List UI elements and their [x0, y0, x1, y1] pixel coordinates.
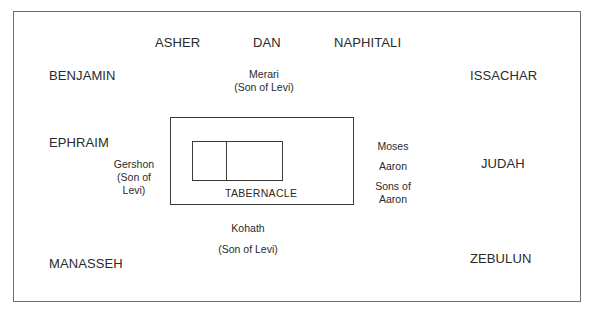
priest-moses: Moses — [363, 140, 423, 153]
tribe-zebulun: ZEBULUN — [470, 252, 531, 265]
holy-of-holies-divider — [226, 142, 227, 180]
kohath-note: (Son of Levi) — [198, 243, 298, 256]
tabernacle-label: TABERNACLE — [225, 188, 297, 199]
tribe-dan: DAN — [253, 36, 281, 49]
gershon-note-1: (Son of — [104, 171, 164, 184]
priest-aaron: Aaron — [363, 160, 423, 173]
gershon-name: Gershon — [104, 158, 164, 171]
tribe-naphitali: NAPHITALI — [334, 36, 401, 49]
tribe-benjamin: BENJAMIN — [49, 69, 116, 82]
levite-gershon: Gershon (Son of Levi) — [104, 158, 164, 197]
tribe-issachar: ISSACHAR — [470, 69, 537, 82]
priest-sons-of-aaron-1: Sons of — [363, 180, 423, 193]
merari-note: (Son of Levi) — [214, 81, 314, 94]
kohath-name: Kohath — [198, 222, 298, 235]
tribe-ephraim: EPHRAIM — [49, 136, 109, 149]
levite-kohath: Kohath (Son of Levi) — [198, 222, 298, 256]
tabernacle-tent — [192, 141, 283, 181]
merari-name: Merari — [214, 68, 314, 81]
priests-group: Moses Aaron Sons of Aaron — [363, 140, 423, 206]
tribe-judah: JUDAH — [481, 157, 525, 170]
tribe-manasseh: MANASSEH — [49, 257, 123, 270]
gershon-note-2: Levi) — [104, 184, 164, 197]
levite-merari: Merari (Son of Levi) — [214, 68, 314, 94]
priest-sons-of-aaron-2: Aaron — [363, 193, 423, 206]
tribe-asher: ASHER — [155, 36, 200, 49]
